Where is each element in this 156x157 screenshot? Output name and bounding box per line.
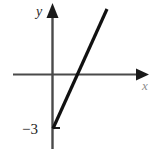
y-axis-label: y bbox=[34, 4, 43, 19]
y-axis-arrowhead bbox=[47, 3, 59, 18]
y-intercept-tick-label: −3 bbox=[22, 121, 38, 137]
graph-figure: y x −3 bbox=[0, 0, 156, 157]
x-axis-label: x bbox=[141, 78, 148, 93]
plotted-line bbox=[53, 9, 107, 129]
coordinate-plane: y x −3 bbox=[0, 0, 156, 157]
